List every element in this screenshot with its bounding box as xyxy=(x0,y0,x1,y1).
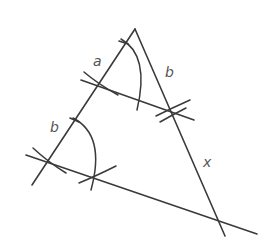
right-side-line xyxy=(135,29,225,236)
lower-parallel-line xyxy=(26,155,257,234)
label-x: x xyxy=(202,154,212,170)
label-b-left: b xyxy=(50,119,59,135)
upper-parallel-line xyxy=(81,80,194,120)
lower-left-cross-arc xyxy=(33,148,66,173)
label-a: a xyxy=(93,53,102,69)
label-b-top: b xyxy=(165,64,174,80)
lower-construction-arc xyxy=(73,118,96,190)
construction-diagram: a b b x xyxy=(0,0,269,242)
